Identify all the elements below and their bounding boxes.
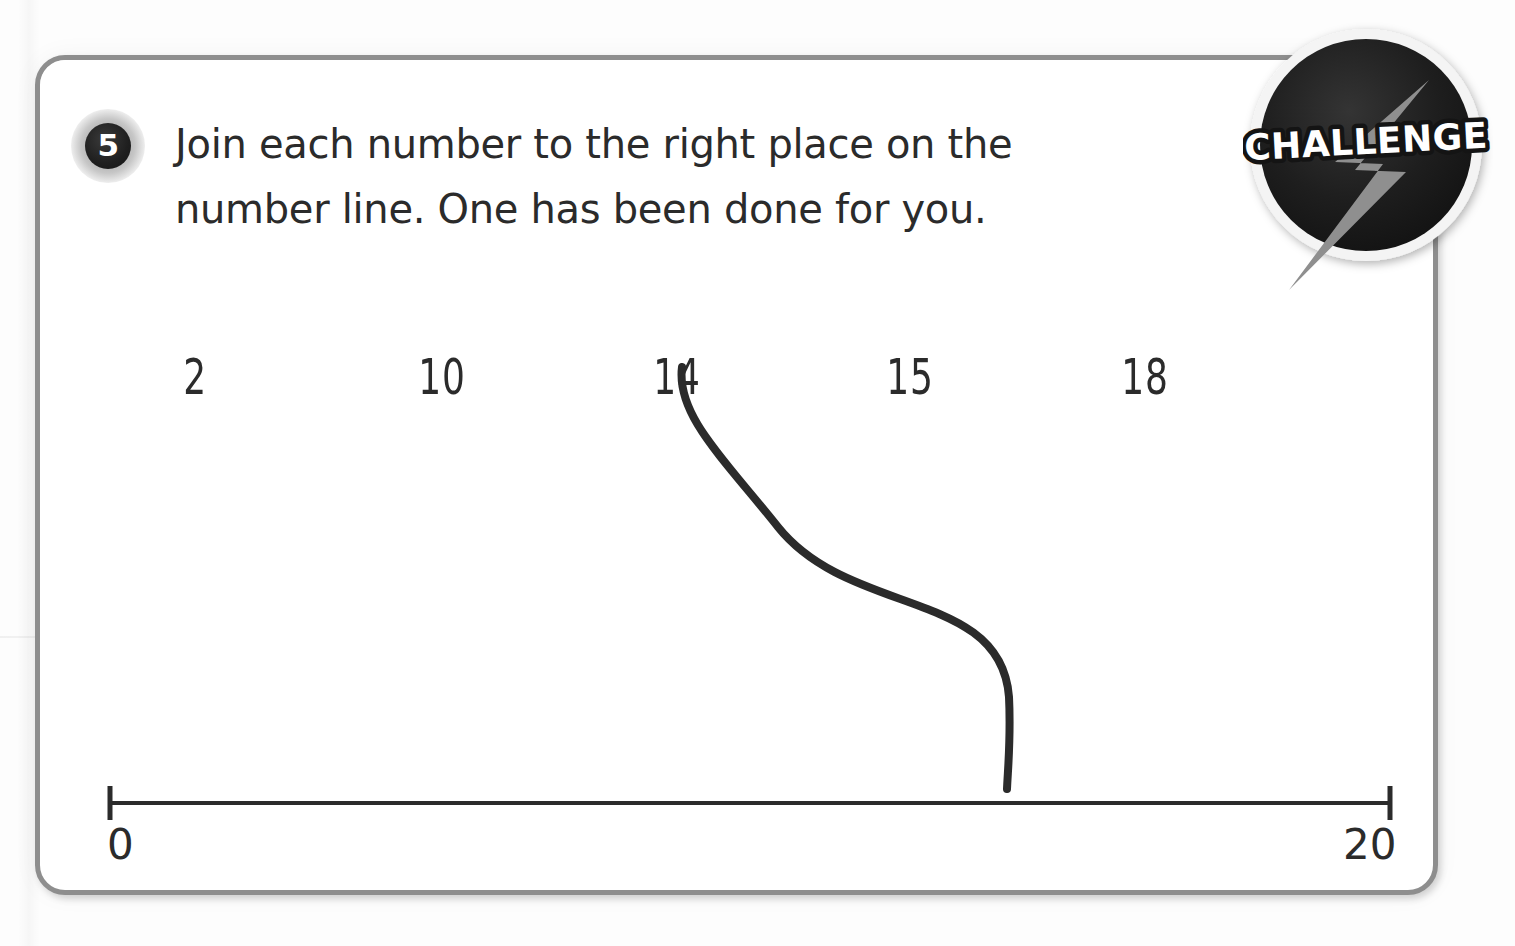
worksheet-page: 0 20 210141518 5 Join each number to the…	[0, 0, 1515, 946]
question-number-circle: 5	[85, 123, 131, 169]
number-label-10[interactable]: 10	[394, 348, 490, 406]
number-line-end-label: 20	[1343, 821, 1396, 869]
number-label-14[interactable]: 14	[629, 348, 725, 406]
question-number-label: 5	[97, 130, 118, 163]
number-label-15[interactable]: 15	[862, 348, 958, 406]
card-highlight	[40, 60, 1433, 120]
number-label-18[interactable]: 18	[1097, 348, 1193, 406]
question-number-badge: 5	[71, 109, 145, 183]
instruction-line-1: Join each number to the right place on t…	[175, 112, 1255, 177]
number-label-2[interactable]: 2	[147, 348, 243, 406]
challenge-badge: CHALLENGE CHALLENGE	[1243, 22, 1493, 297]
instruction-line-2: number line. One has been done for you.	[175, 177, 1255, 242]
number-line-start-label: 0	[107, 821, 134, 869]
question-instruction: Join each number to the right place on t…	[175, 112, 1255, 242]
